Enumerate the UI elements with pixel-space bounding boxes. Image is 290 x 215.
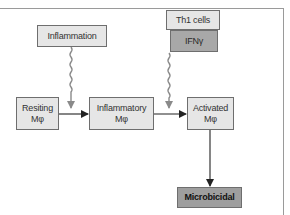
node-microbicidal-label: Microbicidal (184, 192, 234, 203)
node-th1-cells-label: Th1 cells (176, 15, 210, 26)
wavy-arrow-ifn-gamma (168, 53, 170, 108)
node-ifn-gamma-label: IFNγ (185, 36, 203, 47)
node-inflammatory-macrophage-line1: Inflammatory (97, 103, 147, 114)
wavy-arrow-inflammation (70, 47, 72, 108)
node-activated-macrophage-line1: Activated (193, 103, 228, 114)
node-microbicidal: Microbicidal (177, 187, 242, 208)
node-inflammation-label: Inflammation (47, 31, 96, 42)
node-resting-macrophage-line1: Resiting (22, 103, 53, 114)
node-activated-macrophage: Activated Mφ (187, 97, 234, 130)
node-inflammation: Inflammation (37, 25, 107, 47)
node-resting-macrophage-line2: Mφ (31, 114, 44, 125)
node-resting-macrophage: Resiting Mφ (16, 97, 59, 130)
node-activated-macrophage-line2: Mφ (204, 114, 217, 125)
node-ifn-gamma: IFNγ (170, 30, 218, 52)
node-inflammatory-macrophage-line2: Mφ (115, 114, 128, 125)
node-inflammatory-macrophage: Inflammatory Mφ (89, 97, 154, 130)
node-th1-cells: Th1 cells (166, 10, 220, 30)
